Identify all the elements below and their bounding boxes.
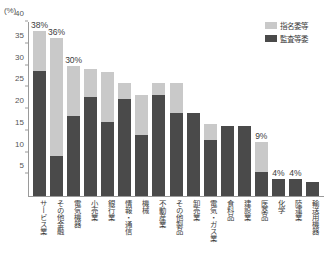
x-axis-category-label: 電気機器: [67, 199, 80, 227]
bar-data-label: 30%: [65, 55, 82, 65]
legend-color-swatch: [265, 22, 277, 29]
bar-data-label: 38%: [31, 20, 48, 30]
bar-segment-bottom: [204, 140, 217, 196]
y-axis-tick-label: 40: [15, 9, 28, 18]
bar-segment-bottom: [255, 172, 268, 196]
bar-data-label: 9%: [255, 131, 267, 141]
x-axis-category-label: 化学: [272, 199, 285, 213]
legend-label: 指名委等: [280, 20, 308, 31]
x-axis-category-label: 食料品: [221, 199, 234, 220]
y-axis-tick-label: 25: [15, 74, 28, 83]
bar: [170, 83, 183, 196]
legend-label: 監査等委: [280, 33, 308, 44]
bar: [272, 179, 285, 196]
y-axis-tick-mark: [25, 64, 28, 65]
x-axis-category-label: 情報・通信: [118, 199, 131, 234]
bar-segment-top: [84, 69, 97, 97]
y-axis-tick-mark: [25, 151, 28, 152]
y-axis-tick-label: 5: [20, 161, 28, 170]
bar-segment-bottom: [306, 182, 319, 196]
x-axis-category-label: 電気・ガス業: [204, 199, 217, 241]
plot-area: 51015202530354038%36%30%9%4%4%: [28, 22, 324, 196]
x-axis-category-label: 医薬品: [255, 199, 268, 220]
bar: [152, 83, 165, 196]
bar: [204, 124, 217, 196]
y-axis-unit-label: (%): [4, 6, 16, 15]
bar-segment-bottom: [135, 135, 148, 196]
y-axis-tick-mark: [25, 173, 28, 174]
bar-segment-bottom: [101, 122, 114, 196]
bar-segment-top: [67, 66, 80, 117]
y-axis-tick-label: 10: [15, 139, 28, 148]
bar-segment-top: [135, 95, 148, 135]
bar-data-label: 36%: [48, 27, 65, 37]
bar: [187, 113, 200, 196]
x-axis-category-label: 陸運業: [289, 199, 302, 220]
bar-segment-bottom: [272, 179, 285, 196]
bar-segment-bottom: [187, 113, 200, 196]
y-axis-tick-label: 15: [15, 117, 28, 126]
bar: [33, 31, 46, 196]
y-axis-tick-label: 20: [15, 96, 28, 105]
y-axis-tick-mark: [25, 86, 28, 87]
x-axis-category-label: その他金融: [50, 199, 63, 234]
legend-item: 指名委等: [265, 20, 308, 31]
bar-data-label: 4%: [289, 168, 301, 178]
y-axis-tick-label: 30: [15, 52, 28, 61]
x-axis-category-label: 建設業: [238, 199, 251, 220]
bar-segment-bottom: [50, 156, 63, 196]
x-axis-category-label: 不動産業: [152, 199, 165, 227]
y-axis-tick-mark: [25, 42, 28, 43]
bar: [84, 69, 97, 196]
bar: [255, 142, 268, 196]
bar-segment-bottom: [118, 99, 131, 196]
bar: [238, 126, 251, 196]
bar: [135, 95, 148, 196]
y-axis-tick-label: 35: [15, 30, 28, 39]
legend-item: 監査等委: [265, 33, 308, 44]
bar-segment-top: [118, 83, 131, 99]
x-axis-category-label: 卸売業: [187, 199, 200, 220]
bar: [118, 83, 131, 196]
bar-segment-top: [152, 83, 165, 95]
bar-segment-bottom: [238, 126, 251, 196]
bar-segment-bottom: [33, 71, 46, 196]
bar-segment-top: [255, 142, 268, 172]
bar: [67, 66, 80, 196]
y-axis-tick-mark: [25, 21, 28, 22]
x-axis-category-label: 輸送用機器: [306, 199, 319, 234]
bar-segment-bottom: [67, 116, 80, 196]
bar-segment-bottom: [170, 113, 183, 196]
x-axis-category-label: その他製品: [170, 199, 183, 234]
bar: [306, 182, 319, 196]
stacked-bar-chart: (%) 51015202530354038%36%30%9%4%4% 指名委等監…: [0, 0, 327, 271]
chart-legend: 指名委等監査等委: [265, 20, 308, 46]
bar-segment-bottom: [152, 95, 165, 196]
bar-segment-bottom: [221, 126, 234, 196]
x-axis-category-label: 銀行業: [101, 199, 114, 220]
x-axis-line: [28, 196, 324, 197]
bar: [101, 72, 114, 196]
y-axis-tick-mark: [25, 129, 28, 130]
bar-segment-top: [33, 31, 46, 71]
x-axis-category-label: サービス業: [33, 199, 46, 234]
bar: [289, 179, 302, 196]
y-axis-tick-mark: [25, 108, 28, 109]
bar-segment-bottom: [84, 97, 97, 196]
bar-segment-top: [101, 72, 114, 122]
x-axis-category-label: 機械: [135, 199, 148, 213]
legend-color-swatch: [265, 35, 277, 42]
bar-segment-top: [170, 83, 183, 113]
bar: [221, 126, 234, 196]
bar-data-label: 4%: [272, 168, 284, 178]
bar-segment-top: [50, 38, 63, 156]
bar: [50, 38, 63, 196]
x-axis-category-label: 小売業: [84, 199, 97, 220]
bar-segment-top: [204, 124, 217, 140]
bar-segment-bottom: [289, 179, 302, 196]
